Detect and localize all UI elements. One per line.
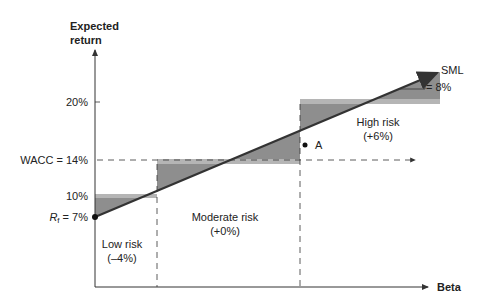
low-risk-adjustment: (–4%) — [107, 252, 136, 264]
moderate-risk-label: Moderate risk — [192, 211, 259, 223]
y-axis-title-line2: return — [70, 34, 102, 46]
high-risk-label: High risk — [357, 116, 400, 128]
tick-label-10: 10% — [66, 190, 88, 202]
sml-label: SML — [441, 64, 464, 76]
rf-point — [92, 214, 98, 220]
sml-line — [95, 73, 437, 217]
tick-label-20: 20% — [66, 96, 88, 108]
low-risk-label: Low risk — [102, 238, 143, 250]
y-axis-title-line1: Expected — [70, 20, 119, 32]
x-axis-title: Beta — [437, 281, 462, 293]
high-risk-adjustment: (+6%) — [363, 130, 393, 142]
sml-chart: A Expected return Beta SML 20% WACC = 14… — [0, 0, 481, 298]
tick-label-rf: Rf = 7% — [49, 211, 88, 225]
slope-annotation: = 8% — [426, 81, 452, 93]
point-a-label: A — [315, 139, 323, 151]
point-a — [303, 143, 308, 148]
moderate-risk-adjustment: (+0%) — [210, 225, 240, 237]
tick-label-wacc: WACC = 14% — [20, 154, 88, 166]
